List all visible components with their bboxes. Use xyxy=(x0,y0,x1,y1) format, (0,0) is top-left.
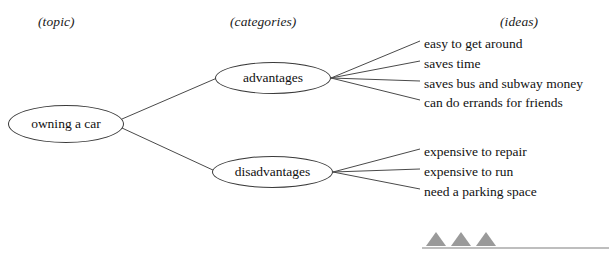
triangle-icon-0 xyxy=(426,232,446,246)
triangle-icon-2 xyxy=(476,232,496,246)
idea-map-diagram: (topic)(categories)(ideas) owning a cara… xyxy=(0,0,616,260)
triangle-icon-1 xyxy=(451,232,471,246)
three-triangles-on-rule-icon xyxy=(0,0,616,260)
